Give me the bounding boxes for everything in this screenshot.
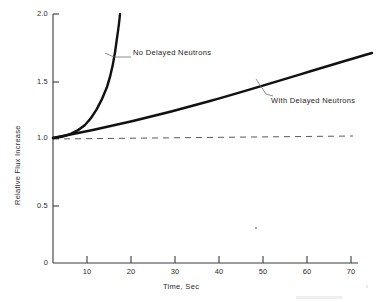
plot-canvas <box>0 0 379 302</box>
x-tick-label-60: 60 <box>295 268 319 276</box>
y-axis-ticks <box>53 14 59 206</box>
x-axis-ticks <box>87 256 351 263</box>
y-tick-label-2-0: 2.0 <box>26 10 48 18</box>
scan-smudge <box>296 296 342 299</box>
y-tick-label-1-0: 1.0 <box>26 134 48 142</box>
x-tick-label-20: 20 <box>119 268 143 276</box>
chart-figure: 2.0 1.5 1.0 0.5 0 10 20 30 40 50 60 70 R… <box>0 0 379 302</box>
y-tick-label-0: 0 <box>26 259 48 267</box>
x-tick-label-30: 30 <box>163 268 187 276</box>
x-tick-label-40: 40 <box>207 268 231 276</box>
reference-dashed-line <box>53 136 353 139</box>
leader-line-no-delayed <box>105 53 131 57</box>
y-axis-title: Relative Flux Increase <box>14 125 22 205</box>
y-tick-label-1-5: 1.5 <box>26 78 48 86</box>
x-axis-title: Time, Sec <box>163 283 199 291</box>
scan-speck-corner <box>366 285 368 288</box>
x-tick-label-70: 70 <box>339 268 363 276</box>
scan-speck <box>255 227 257 229</box>
x-tick-label-50: 50 <box>251 268 275 276</box>
x-tick-label-10: 10 <box>75 268 99 276</box>
y-tick-label-0-5: 0.5 <box>26 202 48 210</box>
annotation-with-delayed-neutrons: With Delayed Neutrons <box>271 97 355 105</box>
annotation-no-delayed-neutrons: No Delayed Neutrons <box>133 49 211 57</box>
curve-no-delayed-neutrons <box>53 14 120 138</box>
